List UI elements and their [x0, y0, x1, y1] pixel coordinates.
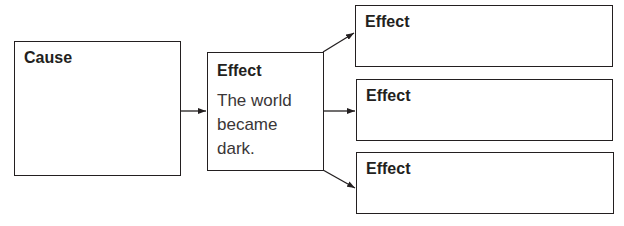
effect-main-text: The world became dark.: [217, 89, 292, 161]
effect-main-box: Effect The world became dark.: [207, 52, 324, 171]
cause-title: Cause: [24, 49, 72, 67]
text-line: dark.: [217, 137, 292, 161]
effect-main-title: Effect: [217, 62, 261, 80]
effect-2-title: Effect: [366, 87, 410, 105]
cause-box: Cause: [14, 41, 181, 176]
text-line: The world: [217, 89, 292, 113]
effect-box-2: Effect: [356, 79, 613, 141]
text-line: became: [217, 113, 292, 137]
effect-box-1: Effect: [355, 5, 613, 67]
effect-1-title: Effect: [365, 13, 409, 31]
arrow-effect-to-effect-3: [323, 170, 355, 188]
arrow-effect-to-effect-1: [323, 33, 354, 52]
effect-3-title: Effect: [366, 160, 410, 178]
effect-box-3: Effect: [356, 152, 614, 214]
